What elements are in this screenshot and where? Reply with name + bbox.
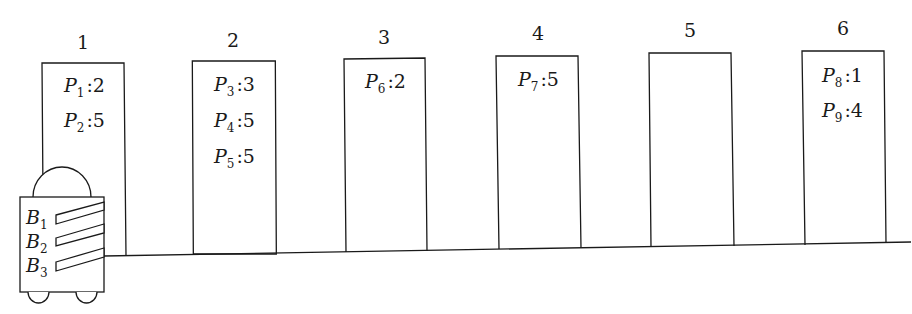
warehouse-diagram: 1 P1:2 P2:5 2 P3:3 P4:5 P5:5 3 P6:2 4 P7… xyxy=(0,0,912,314)
robot-wheel xyxy=(76,292,97,303)
rack-item: P8:1 xyxy=(821,64,863,90)
rack-item: P2:5 xyxy=(63,109,105,135)
rack-number: 6 xyxy=(837,17,849,39)
rack-item: P7:5 xyxy=(517,68,559,94)
rack-number: 1 xyxy=(77,31,89,53)
robot-dome xyxy=(33,167,91,197)
robot-icon: B1 B2 B3 xyxy=(20,167,104,303)
rack-item: P1:2 xyxy=(63,74,105,100)
rack-number: 4 xyxy=(532,22,544,44)
rack-3: 3 P6:2 xyxy=(344,26,427,252)
robot-wheel xyxy=(28,292,49,303)
rack-item: P6:2 xyxy=(364,70,406,96)
rack-number: 5 xyxy=(684,19,696,41)
rack-2: 2 P3:3 P4:5 P5:5 xyxy=(192,29,276,254)
rack-number: 2 xyxy=(227,29,239,51)
rack-4: 4 P7:5 xyxy=(496,22,581,249)
rack-item: P4:5 xyxy=(213,109,255,135)
rack-number: 3 xyxy=(378,26,390,48)
rack-item: P5:5 xyxy=(213,145,255,171)
rack-item: P9:4 xyxy=(821,99,863,125)
rack-5: 5 xyxy=(649,19,734,247)
rack-6: 6 P8:1 P9:4 xyxy=(802,17,886,245)
rack-item: P3:3 xyxy=(213,73,255,99)
